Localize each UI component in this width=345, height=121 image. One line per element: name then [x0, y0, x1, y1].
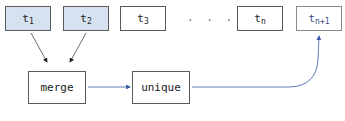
node-subscript: 3	[144, 17, 149, 26]
edge-unique-output	[192, 36, 319, 87]
unique-operation: unique	[132, 71, 190, 104]
input-node-t1: t1	[5, 6, 51, 31]
node-label: t	[308, 12, 315, 25]
input-node-t2: t2	[63, 6, 109, 31]
node-label: t	[22, 12, 29, 25]
input-node-t3: t3	[120, 6, 166, 31]
input-node-tn: tn	[237, 6, 283, 31]
edge-t1-merge	[31, 33, 47, 62]
node-label: t	[254, 12, 261, 25]
node-subscript: 1	[29, 17, 34, 26]
merge-operation: merge	[28, 71, 86, 104]
node-subscript: n+1	[315, 17, 329, 26]
node-subscript: n	[261, 17, 266, 26]
output-node-tn-plus-1: tn+1	[296, 6, 342, 31]
edge-t2-merge	[70, 33, 86, 62]
node-label: t	[80, 12, 87, 25]
node-subscript: 2	[87, 17, 92, 26]
node-label: t	[137, 12, 144, 25]
ellipsis: . . .	[187, 11, 235, 24]
